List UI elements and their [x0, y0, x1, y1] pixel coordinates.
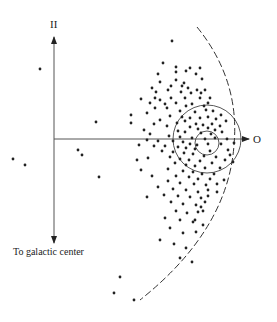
star-point — [172, 140, 175, 143]
star-point — [154, 107, 157, 110]
star-point — [215, 156, 218, 159]
star-point — [203, 105, 206, 108]
star-point — [191, 261, 194, 264]
star-point — [196, 89, 199, 92]
star-point — [207, 102, 210, 105]
star-point — [192, 221, 195, 224]
star-point — [189, 126, 192, 129]
star-point — [138, 144, 141, 147]
star-point — [172, 188, 175, 191]
diagram-canvas — [0, 0, 277, 322]
star-point — [175, 71, 178, 74]
star-point — [223, 179, 226, 182]
star-point — [205, 184, 208, 187]
star-point — [199, 67, 202, 70]
star-point — [182, 232, 185, 235]
star-point — [177, 130, 180, 133]
star-point — [216, 191, 219, 194]
star-point — [203, 155, 206, 158]
star-point — [179, 136, 182, 139]
star-point — [204, 89, 207, 92]
star-point — [207, 189, 210, 192]
star-point — [209, 178, 212, 181]
star-point — [189, 196, 192, 199]
star-point — [185, 164, 188, 167]
star-point — [170, 201, 173, 204]
star-point — [182, 170, 185, 173]
star-point — [177, 146, 180, 149]
star-point — [202, 124, 205, 127]
star-point — [175, 66, 178, 69]
star-point — [195, 231, 198, 234]
star-point — [184, 97, 187, 100]
star-point — [130, 122, 133, 125]
star-point — [146, 196, 149, 199]
star-point — [186, 212, 189, 215]
star-point — [182, 141, 185, 144]
star-point — [221, 131, 224, 134]
star-point — [196, 144, 199, 147]
star-point — [204, 167, 207, 170]
star-point — [212, 110, 215, 113]
star-point — [192, 153, 195, 156]
star-point — [207, 127, 210, 130]
star-point — [98, 176, 101, 179]
star-point — [229, 154, 232, 157]
star-point — [211, 123, 214, 126]
star-point — [193, 183, 196, 186]
star-point — [185, 189, 188, 192]
star-point — [169, 227, 172, 230]
star-point — [164, 145, 167, 148]
star-points — [12, 40, 236, 302]
star-point — [207, 116, 210, 119]
star-point — [191, 103, 194, 106]
star-point — [183, 82, 186, 85]
star-point — [188, 159, 191, 162]
star-point — [202, 210, 205, 213]
star-point — [24, 164, 27, 167]
star-point — [172, 151, 175, 154]
star-point — [185, 105, 188, 108]
star-point — [190, 92, 193, 95]
star-point — [187, 87, 190, 90]
star-point — [146, 139, 149, 142]
star-point — [185, 70, 188, 73]
inner-circle — [195, 131, 219, 155]
star-point — [81, 154, 84, 157]
star-point — [166, 107, 169, 110]
star-point — [175, 102, 178, 105]
star-point — [167, 168, 170, 171]
star-point — [159, 99, 162, 102]
star-point — [201, 78, 204, 81]
star-point — [185, 147, 188, 150]
star-point — [207, 143, 210, 146]
star-point — [204, 201, 207, 204]
star-point — [181, 85, 184, 88]
star-point — [173, 243, 176, 246]
star-point — [197, 191, 200, 194]
star-point — [189, 117, 192, 120]
star-point — [175, 210, 178, 213]
dashed-boundary-arc — [140, 27, 235, 300]
star-point — [119, 276, 122, 279]
star-point — [168, 135, 171, 138]
star-point — [181, 116, 184, 119]
star-point — [163, 194, 166, 197]
star-point — [167, 180, 170, 183]
star-point — [157, 186, 160, 189]
star-point — [195, 123, 198, 126]
star-point — [157, 140, 160, 143]
star-point — [220, 143, 223, 146]
star-point — [159, 119, 162, 122]
star-point — [214, 137, 217, 140]
star-point — [233, 142, 236, 145]
star-point — [146, 112, 149, 115]
star-point — [113, 292, 116, 295]
star-point — [157, 73, 160, 76]
star-point — [200, 197, 203, 200]
star-point — [184, 131, 187, 134]
star-point — [12, 158, 15, 161]
star-point — [219, 167, 222, 170]
star-point — [170, 97, 173, 100]
star-point — [197, 128, 200, 131]
